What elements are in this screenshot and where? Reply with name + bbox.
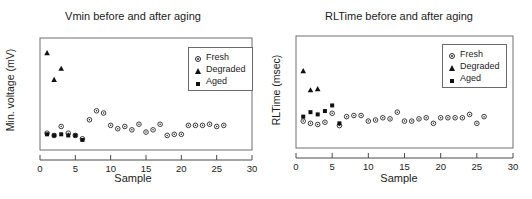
data-point-fresh-center (96, 110, 98, 112)
legend-label-fresh: Fresh (460, 48, 483, 60)
data-point-fresh-center (223, 125, 225, 127)
legend-label-fresh: Fresh (206, 51, 229, 63)
data-point-fresh-center (411, 120, 413, 122)
legend-label-aged: Aged (460, 72, 481, 84)
data-point-fresh-center (138, 123, 140, 125)
data-point-fresh-center (117, 128, 119, 130)
x-tick-label: 20 (435, 161, 446, 172)
data-point-aged (45, 132, 49, 136)
data-point-fresh-center (310, 123, 312, 125)
data-point-fresh-center (103, 112, 105, 114)
data-point-fresh-center (360, 115, 362, 117)
data-point-fresh-center (145, 131, 147, 133)
data-point-fresh-center (159, 123, 161, 125)
x-tick-label: 5 (73, 163, 78, 174)
data-point-aged (316, 112, 320, 116)
x-tick-label: 5 (330, 161, 335, 172)
legend-label-aged: Aged (206, 75, 227, 87)
x-tick-label: 15 (141, 163, 152, 174)
data-point-fresh-center (454, 117, 456, 119)
x-tick-label: 10 (105, 163, 116, 174)
data-point-fresh-center (375, 119, 377, 121)
data-point-fresh-center (152, 129, 154, 131)
data-point-aged (337, 121, 341, 125)
x-tick-label: 15 (399, 161, 410, 172)
x-tick-label: 25 (472, 161, 483, 172)
data-point-fresh-center (469, 114, 471, 116)
data-point-fresh-center (418, 118, 420, 120)
legend-vmin: Fresh Degraded Aged (188, 47, 253, 91)
data-point-fresh-center (209, 123, 211, 125)
data-point-aged (52, 133, 56, 137)
data-point-fresh-center (110, 125, 112, 127)
filled-square-icon (447, 69, 457, 87)
data-point-fresh-center (368, 120, 370, 122)
data-point-fresh-center (476, 123, 478, 125)
data-point-fresh-center (324, 121, 326, 123)
legend-item-aged: Aged (193, 75, 246, 87)
plot-area-vmin: 051015202530 (0, 0, 266, 199)
plot-area-rltime: 051015202530 (266, 0, 532, 199)
data-point-fresh-center (447, 117, 449, 119)
data-point-fresh-center (397, 111, 399, 113)
legend-item-aged: Aged (447, 72, 500, 84)
data-point-fresh-center (353, 115, 355, 117)
x-tick-label: 0 (293, 161, 298, 172)
scatter-plot-vmin: 051015202530 (0, 0, 266, 199)
panel-rltime: RLTime before and after aging RLTime (ms… (266, 0, 532, 199)
x-tick-label: 10 (363, 161, 374, 172)
data-point-fresh-center (317, 124, 319, 126)
data-point-fresh-center (202, 125, 204, 127)
legend-label-degraded: Degraded (460, 60, 500, 72)
data-point-fresh-center (89, 119, 91, 121)
data-point-fresh-center (331, 113, 333, 115)
data-point-aged (80, 138, 84, 142)
data-point-fresh-center (483, 116, 485, 118)
data-point-fresh-center (382, 117, 384, 119)
data-point-fresh-center (181, 134, 183, 136)
data-point-aged (323, 109, 327, 113)
panel-vmin: Vmin before and after aging Min. voltage… (0, 0, 266, 199)
data-point-fresh-center (425, 117, 427, 119)
data-point-fresh-center (389, 118, 391, 120)
data-point-fresh-center (302, 120, 304, 122)
scatter-plot-rltime: 051015202530 (266, 0, 532, 199)
x-tick-label: 30 (247, 163, 258, 174)
data-point-fresh-center (166, 135, 168, 137)
data-point-aged (330, 103, 334, 107)
filled-square-icon (193, 72, 203, 90)
data-point-aged (59, 132, 63, 136)
data-point-fresh-center (60, 126, 62, 128)
data-point-fresh-center (462, 117, 464, 119)
data-point-fresh-center (195, 125, 197, 127)
data-point-fresh-center (216, 126, 218, 128)
data-point-aged (73, 133, 77, 137)
x-tick-label: 0 (37, 163, 42, 174)
data-point-fresh-center (346, 116, 348, 118)
data-point-fresh-center (440, 117, 442, 119)
x-tick-label: 30 (508, 161, 519, 172)
data-point-fresh-center (188, 125, 190, 127)
data-point-aged (66, 133, 70, 137)
data-point-fresh-center (174, 134, 176, 136)
data-point-aged (308, 110, 312, 114)
x-tick-label: 25 (211, 163, 222, 174)
x-tick-label: 20 (176, 163, 187, 174)
legend-rltime: Fresh Degraded Aged (442, 44, 507, 88)
data-point-fresh-center (131, 129, 133, 131)
figure-two-panel-scatter: Vmin before and after aging Min. voltage… (0, 0, 532, 199)
data-point-fresh-center (404, 120, 406, 122)
data-point-aged (301, 115, 305, 119)
data-point-fresh-center (124, 126, 126, 128)
legend-label-degraded: Degraded (206, 63, 246, 75)
data-point-fresh-center (433, 123, 435, 125)
